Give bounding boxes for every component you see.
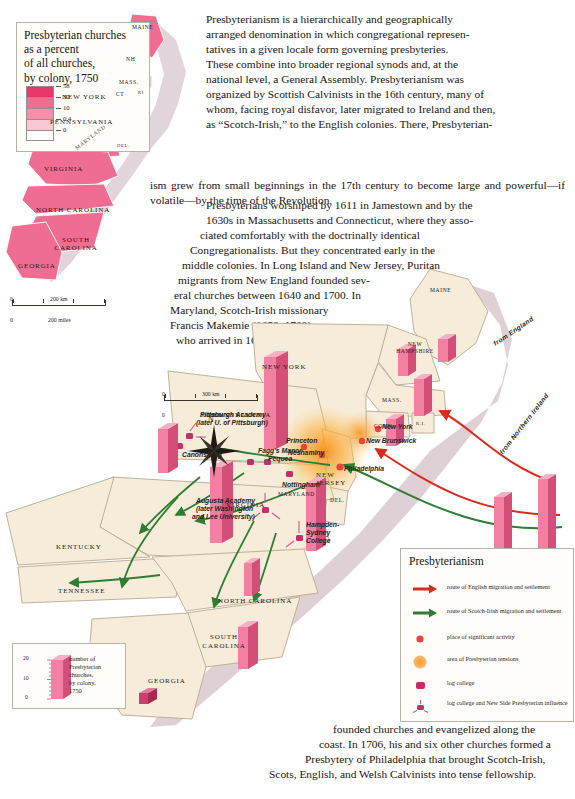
green-arrow-icon (411, 607, 441, 621)
bar-axis-10: 10 (23, 675, 29, 681)
prose-line: arranged denomination in which congregat… (206, 27, 566, 42)
new-side-icon (411, 699, 441, 713)
prose-line: tatives in a given locale form governing… (206, 42, 566, 57)
red-arrow-icon (411, 583, 441, 597)
caption-line: number of (69, 655, 123, 663)
prose-line: as “Scotch-Irish,” to the English coloni… (206, 117, 566, 132)
prose-line: Presbyterianism is a hierarchically and … (206, 12, 566, 27)
tick-label: 0 (63, 126, 66, 133)
inset-title-line: by colony, 1750 (24, 72, 146, 86)
legend-item-label: route of English migration and settlemen… (447, 583, 575, 591)
prose-line: national level, a General Assembly. Pres… (206, 72, 566, 87)
legend-title: Presbyterianism (409, 555, 484, 568)
log-college-nottingham (286, 471, 293, 477)
bar-mass (414, 374, 432, 416)
log-college-pittsburgh (186, 433, 193, 439)
swatch-0 (26, 130, 54, 141)
prose-line: coast. In 1706, his and six other church… (305, 737, 570, 752)
caption-line: churches, (69, 671, 123, 679)
bar-northcarolina (244, 558, 260, 596)
activity-dot-newyork (375, 426, 381, 432)
inset-title-line: as a percent (24, 43, 146, 57)
activity-dot-newbrunswick (359, 438, 365, 444)
swatch-58 (26, 86, 54, 97)
log-college-pequea (264, 459, 271, 465)
prose-line: Scots, English, and Welsh Calvinists int… (269, 767, 570, 782)
log-college-icon (411, 679, 441, 693)
inset-legend-ticks: 58 30 10 0.4 0 (56, 80, 71, 135)
legend-item-label: log college and New Side Presbyterian in… (447, 699, 575, 707)
bar-maryland (306, 477, 326, 551)
bar-conn (386, 414, 404, 446)
main-scale-bar: 0 300 km 0 300 miles (160, 391, 280, 421)
activity-dot-princeton (301, 444, 307, 450)
activity-dot-philadelphia (336, 463, 343, 470)
log-college-faggs-manor (247, 459, 254, 465)
inset-state-virginia (28, 146, 118, 186)
swatch-30 (26, 97, 54, 108)
red-dot-icon (411, 633, 441, 647)
caption-line: Presbyterian (69, 663, 123, 671)
legend-item-label: place of significant activity (447, 633, 575, 641)
paragraph-1: Presbyterianism is a hierarchically and … (206, 12, 566, 132)
tick-label: 30 (63, 93, 70, 100)
main-scale-ruler (164, 395, 258, 401)
tick-label: 58 (63, 82, 70, 89)
bar-maine (438, 334, 456, 362)
main-scale-zero-2: 0 (162, 412, 165, 418)
tick-label: 10 (63, 104, 70, 111)
main-scale-miles: 300 miles (200, 412, 223, 418)
activity-dot-neshaminy (319, 452, 325, 458)
inset-title-line: of all churches, (24, 57, 146, 71)
log-college-hampden-sydney (296, 535, 303, 541)
legend-item-label: area of Presbyterian tensions (447, 655, 575, 663)
bar-axis-0: 0 (25, 694, 28, 700)
legend-item-label: log college (447, 679, 575, 687)
bar-newhampshire (398, 344, 416, 376)
prose-line: organized by Scottish Calvinists in the … (206, 87, 566, 102)
orange-glow-icon (411, 655, 441, 669)
swatch-10 (26, 108, 54, 119)
prose-line: Presbytery of Philadelphia that brought … (305, 752, 570, 767)
prose-line: Presbyterians worshiped by 1611 in James… (150, 198, 565, 213)
map-legend: Presbyterianism route of English migrati… (400, 548, 574, 722)
bar-southcarolina (238, 621, 258, 669)
prose-line: These combine into broader regional syno… (206, 57, 566, 72)
prose-line: whom, facing royal disfavor, later migra… (206, 102, 566, 117)
bar-pennsylvania (158, 423, 178, 473)
bar-chart-legend: 20 10 0 number of Presbyterian churches,… (12, 643, 126, 709)
tension-glow-newbrunswick (338, 411, 382, 455)
inset-title: Presbyterian churches as a percent of al… (24, 29, 146, 86)
tick-label: 0.4 (63, 115, 71, 122)
bar-legend-caption: number of Presbyterian churches, by colo… (69, 655, 123, 695)
caption-line: by colony, (69, 679, 123, 687)
inset-title-line: Presbyterian churches (24, 29, 146, 43)
atlas-page: Presbyterianism is a hierarchically and … (0, 0, 575, 799)
legend-item-label: route of Scotch-Irish migration and sett… (447, 607, 575, 615)
swatch-04 (26, 119, 54, 130)
prose-line: ism grew from small beginnings in the 17… (150, 179, 501, 191)
bar-axis-20: 20 (23, 655, 29, 661)
caption-line: 1750 (69, 687, 123, 695)
inset-legend-swatches (26, 86, 54, 141)
log-college-augusta (262, 507, 269, 513)
